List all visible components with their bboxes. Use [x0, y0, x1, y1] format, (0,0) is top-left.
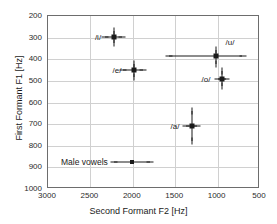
x-tick-label: 1000 [197, 192, 237, 200]
x-axis-title: Second Formant F2 [Hz] [0, 206, 277, 216]
x-tick-label: 1500 [154, 192, 194, 200]
error-bar-cap [182, 126, 189, 127]
y-tick-label: 200 [10, 12, 42, 20]
error-bar-cap [222, 68, 223, 75]
x-tick-label: 500 [239, 192, 277, 200]
legend-marker [130, 160, 134, 164]
data-marker [214, 54, 219, 59]
error-bar-cap [101, 36, 108, 37]
legend-error-bar-cap [147, 161, 154, 162]
x-tick-label: 2000 [112, 192, 152, 200]
data-marker [190, 124, 195, 129]
x-tick-label: 2500 [69, 192, 109, 200]
error-bar-cap [194, 126, 201, 127]
point-label-e: /e/ [113, 66, 122, 75]
error-bar-cap [133, 60, 134, 67]
gridline-horizontal [48, 167, 258, 168]
error-bar-horizontal [169, 56, 242, 57]
legend-error-bar-cap [111, 161, 118, 162]
error-bar-cap [118, 36, 125, 37]
error-bar-cap [216, 46, 217, 53]
gridline-horizontal [48, 103, 258, 104]
error-bar-cap [192, 108, 193, 115]
x-tick-label: 3000 [27, 192, 67, 200]
point-label-o: /o/ [202, 74, 211, 83]
error-bar-cap [166, 56, 173, 57]
error-bar-cap [216, 60, 217, 67]
data-marker [112, 34, 117, 39]
gridline-horizontal [48, 124, 258, 125]
gridline-horizontal [48, 146, 258, 147]
y-axis-title: First Formant F1 [Hz] [14, 23, 24, 173]
error-bar-cap [239, 56, 246, 57]
gridline-horizontal [48, 59, 258, 60]
legend-label: Male vowels [61, 157, 108, 167]
gridline-vertical [218, 16, 219, 187]
formant-scatter-chart: 200 300 400 500 600 700 800 900 1000 300… [0, 0, 277, 224]
point-label-u: /u/ [226, 38, 235, 47]
data-marker [220, 76, 225, 81]
point-label-a: /a/ [171, 122, 180, 131]
plot-area: /i/ /e/ /u/ [47, 15, 259, 188]
error-bar-cap [139, 70, 146, 71]
point-label-i: /i/ [95, 32, 101, 41]
gridline-horizontal [48, 81, 258, 82]
error-bar-cap [133, 73, 134, 80]
error-bar-cap [222, 83, 223, 90]
error-bar-cap [192, 138, 193, 145]
gridline-vertical [175, 16, 176, 187]
data-marker [131, 68, 136, 73]
error-bar-cap [114, 40, 115, 47]
